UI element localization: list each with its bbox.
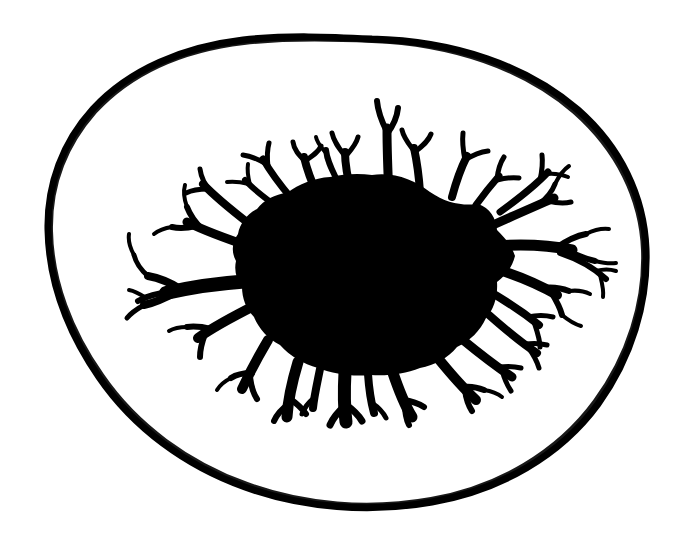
- branch-right-6a: [596, 270, 616, 272]
- branch-right-1d: [595, 261, 616, 263]
- figure-canvas: [0, 0, 685, 549]
- branch-bottom-2: [344, 372, 346, 422]
- branch-top-9b: [497, 178, 519, 180]
- branch-right-3a: [540, 155, 542, 180]
- branch-right-2b: [548, 201, 571, 203]
- branch-left-4a: [187, 327, 211, 329]
- branch-left-2b: [172, 226, 196, 228]
- branch-top-4a: [463, 133, 465, 160]
- branch-top-6b: [267, 143, 269, 167]
- branch-bottom-4b: [462, 387, 484, 390]
- branch-top-1: [387, 128, 389, 196]
- branch-top-7b: [248, 164, 250, 185]
- branch-right-5a: [528, 316, 553, 318]
- branch-top-7a: [227, 182, 249, 184]
- branch-bottom-5b: [499, 366, 521, 368]
- figure-root: [0, 0, 685, 549]
- branch-right-4a: [543, 288, 569, 291]
- branch-bottom-9b: [525, 343, 547, 345]
